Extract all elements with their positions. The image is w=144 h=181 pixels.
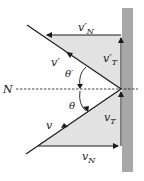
- reflected-normal-label: v′N: [78, 21, 95, 36]
- reflected-velocity-label: v′: [51, 56, 60, 69]
- collision-diagram: N v′N v′ θ′ v′T θ v vT vN: [0, 0, 144, 181]
- incoming-normal-label: vN: [82, 150, 96, 165]
- incoming-angle-label: θ: [69, 100, 75, 111]
- normal-label: N: [2, 83, 13, 96]
- reflected-angle-label: θ′: [65, 68, 74, 79]
- reflected-angle-arrow-icon: [77, 84, 83, 89]
- incoming-velocity-label: v: [46, 119, 53, 132]
- wall: [122, 8, 133, 172]
